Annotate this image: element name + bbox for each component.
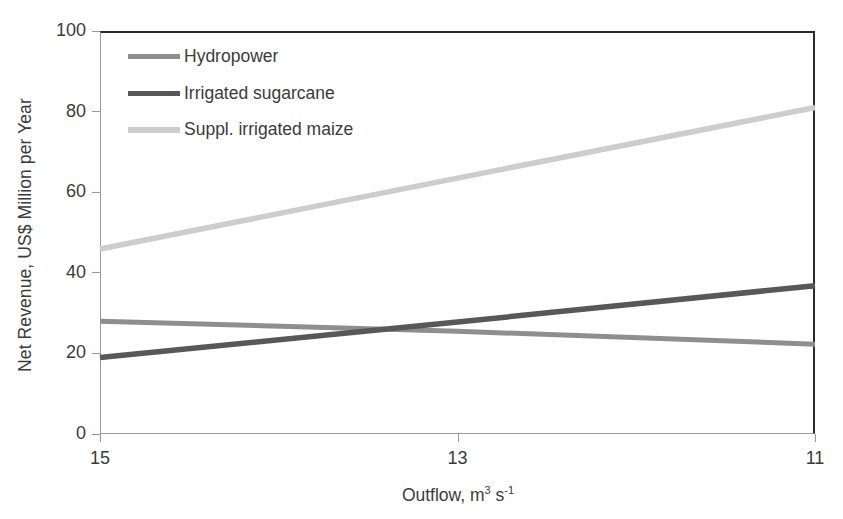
x-axis-label: Outflow, m3 s-1 bbox=[100, 484, 816, 506]
legend-item[interactable]: Suppl. irrigated maize bbox=[128, 121, 353, 139]
chart-figure: Net Revenue, US$ Million per Year 020406… bbox=[0, 0, 843, 519]
x-axis-label-sup-neg: -1 bbox=[504, 484, 514, 496]
legend-label: Irrigated sugarcane bbox=[184, 85, 335, 103]
legend-swatch bbox=[128, 91, 180, 97]
series-line bbox=[100, 286, 815, 358]
x-axis-label-base: Outflow, m bbox=[402, 485, 485, 505]
series-layer bbox=[0, 0, 843, 519]
legend-label: Hydropower bbox=[184, 48, 278, 66]
legend-label: Suppl. irrigated maize bbox=[184, 121, 353, 139]
legend-item[interactable]: Irrigated sugarcane bbox=[128, 85, 353, 103]
legend-swatch bbox=[128, 127, 180, 133]
legend-swatch bbox=[128, 54, 180, 59]
x-axis-label-mid: s bbox=[491, 485, 505, 505]
chart-legend: HydropowerIrrigated sugarcaneSuppl. irri… bbox=[128, 48, 353, 139]
legend-item[interactable]: Hydropower bbox=[128, 48, 353, 66]
